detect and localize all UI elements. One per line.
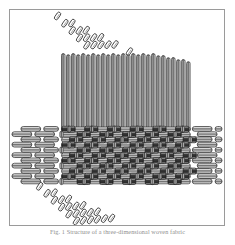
figure-frame — [9, 9, 225, 226]
figure-caption: Fig. 1 Structure of a three-dimensional … — [0, 228, 235, 236]
weave-diagram-canvas — [10, 10, 224, 225]
interlaced-core-layer — [60, 126, 197, 184]
figure-root: Fig. 1 Structure of a three-dimensional … — [0, 0, 235, 245]
weave-diagram-svg — [10, 10, 224, 225]
